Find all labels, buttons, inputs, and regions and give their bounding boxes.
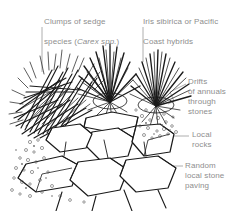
callout-drifts-of-annuals: Drifts of annuals through stones (188, 77, 233, 117)
callout-iris: Iris sibirica or Pacific Coast hybrids (143, 7, 233, 47)
callout-sedge-species-name: Carex spp. (77, 37, 117, 46)
iris-clump-right (130, 50, 191, 127)
callout-iris-line2: Coast hybrids (143, 37, 193, 46)
callout-sedge-line2-suffix: ) (117, 37, 120, 46)
callout-local-rocks: Local rocks (192, 130, 233, 150)
garden-planting-illustration: .ink { stroke:#1a1a1a; fill:none; stroke… (0, 0, 233, 211)
callout-sedge-clumps: Clumps of sedge species (Carex spp.) (44, 7, 140, 47)
iris-clump-left (77, 44, 140, 121)
callout-sedge-line2-prefix: species ( (44, 37, 77, 46)
callout-iris-line1: Iris sibirica or Pacific (143, 17, 218, 26)
callout-sedge-line1: Clumps of sedge (44, 17, 106, 26)
local-rock-group (46, 112, 174, 160)
callout-random-local-stone-paving: Random local stone paving (185, 161, 233, 191)
